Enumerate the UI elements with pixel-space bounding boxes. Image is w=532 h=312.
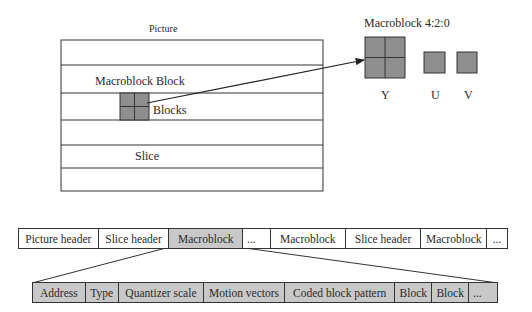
y-label: Y (381, 89, 390, 101)
macroblock-block-label: Macroblock Block (95, 75, 185, 87)
v-label: V (464, 89, 473, 101)
slice-label: Slice (135, 150, 159, 162)
type-cell: Type (86, 283, 119, 302)
block-cell: Block (432, 283, 469, 302)
ellipsis-cell: ... (487, 229, 507, 248)
picture-title: Picture (149, 24, 177, 34)
macroblock-cell: Macroblock (421, 229, 487, 248)
u-block (424, 52, 445, 73)
macroblock-420-title: Macroblock 4:2:0 (364, 17, 450, 29)
macroblock-cell-highlighted: Macroblock (169, 229, 243, 248)
ellipsis-cell: ... (243, 229, 271, 248)
expansion-line-left (32, 248, 166, 283)
block-cell: Block (395, 283, 432, 302)
bitstream-row: Picture header Slice header Macroblock .… (18, 228, 508, 249)
macroblock-cell: Macroblock (271, 229, 346, 248)
address-cell: Address (33, 283, 86, 302)
motion-vectors-cell: Motion vectors (204, 283, 285, 302)
v-block (457, 52, 477, 73)
expansion-line-right (245, 248, 498, 283)
macroblock-detail-row: Address Type Quantizer scale Motion vect… (32, 282, 498, 303)
picture-header-cell: Picture header (19, 229, 99, 248)
diagram-lines (0, 0, 532, 312)
picture-macroblock (120, 93, 149, 120)
y-block (365, 37, 405, 78)
blocks-label: Blocks (153, 104, 186, 116)
slice-header-cell: Slice header (346, 229, 422, 248)
slice-header-cell: Slice header (99, 229, 170, 248)
u-label: U (431, 89, 440, 101)
coded-block-pattern-cell: Coded block pattern (285, 283, 396, 302)
ellipsis-cell: ... (469, 283, 497, 302)
quantizer-scale-cell: Quantizer scale (119, 283, 205, 302)
